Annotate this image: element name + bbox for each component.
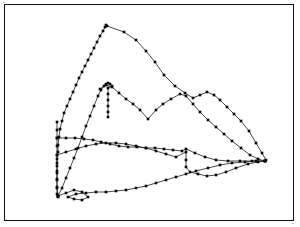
data-point-marker [264, 160, 267, 163]
data-point-marker [139, 109, 142, 112]
data-point-marker [85, 145, 88, 148]
data-point-marker [206, 175, 209, 178]
data-point-marker [56, 145, 59, 148]
data-point-marker [189, 171, 192, 174]
data-point-marker [226, 106, 229, 109]
data-point-marker [235, 167, 238, 170]
data-point-marker [145, 147, 148, 150]
data-point-marker [154, 61, 157, 64]
data-point-marker [89, 115, 92, 118]
data-point-marker [240, 120, 243, 123]
data-point-marker [56, 137, 59, 140]
data-point-marker [69, 98, 72, 101]
series-layer [57, 25, 266, 200]
data-point-marker [56, 178, 59, 181]
data-point-marker [56, 154, 59, 157]
data-point-marker [93, 105, 96, 108]
data-point-marker [261, 152, 264, 155]
data-point-marker [75, 148, 78, 151]
data-point-marker [219, 164, 222, 167]
data-point-marker [219, 99, 222, 102]
data-point-marker [97, 95, 100, 98]
data-point-marker [155, 182, 158, 185]
data-point-marker [102, 30, 105, 33]
data-point-marker [95, 143, 98, 146]
data-point-marker [73, 157, 76, 160]
data-point-marker [107, 93, 110, 96]
data-point-marker [155, 109, 158, 112]
data-point-marker [61, 187, 64, 190]
data-point-marker [215, 174, 218, 177]
data-point-marker [172, 149, 175, 152]
data-point-marker [65, 137, 68, 140]
data-point-marker [92, 139, 95, 142]
scan-noise-layer [3, 2, 294, 224]
data-point-marker [65, 151, 68, 154]
data-point-marker [57, 151, 60, 154]
data-point-marker [85, 125, 88, 128]
data-point-marker [225, 171, 228, 174]
data-point-marker [127, 146, 130, 149]
data-point-marker [207, 119, 210, 122]
data-point-marker [199, 111, 202, 114]
data-point-marker [104, 26, 107, 29]
data-point-marker [105, 142, 108, 145]
data-point-marker [154, 147, 157, 150]
data-point-marker [63, 112, 66, 115]
data-point-marker [248, 130, 251, 133]
data-point-marker [81, 191, 84, 194]
data-point-marker [251, 160, 254, 163]
data-point-marker [75, 84, 78, 87]
data-point-marker [105, 84, 108, 87]
data-point-marker [107, 99, 110, 102]
data-point-marker [147, 118, 150, 121]
data-point-marker [249, 154, 252, 157]
data-point-marker [81, 71, 84, 74]
data-point-marker [87, 59, 90, 62]
data-point-marker [247, 163, 250, 166]
data-point-marker [135, 145, 138, 148]
data-point-marker [107, 116, 110, 119]
data-point-marker [255, 142, 258, 145]
data-point-marker [73, 198, 76, 201]
data-point-marker [83, 138, 86, 141]
data-point-marker [155, 150, 158, 153]
data-point-marker [170, 98, 173, 101]
data-point-marker [111, 86, 114, 89]
data-point-marker [57, 195, 60, 198]
data-point-marker [66, 105, 69, 108]
data-point-marker [175, 176, 178, 179]
data-point-marker [65, 177, 68, 180]
data-point-marker [118, 145, 121, 148]
data-point-marker [199, 94, 202, 97]
data-point-marker [207, 167, 210, 170]
data-point-marker [132, 103, 135, 106]
data-point-marker [145, 50, 148, 53]
data-point-marker [75, 193, 78, 196]
data-point-marker [107, 105, 110, 108]
data-point-marker [255, 160, 258, 163]
data-point-marker [215, 126, 218, 129]
data-point-marker [231, 162, 234, 165]
data-point-marker [84, 65, 87, 68]
data-point-marker [165, 153, 168, 156]
data-point-marker [240, 147, 243, 150]
data-point-marker [175, 156, 178, 159]
data-point-marker [162, 103, 165, 106]
figure-container [0, 0, 300, 227]
data-point-marker [73, 189, 76, 192]
data-point-marker [185, 151, 188, 154]
line-chart-plot [0, 0, 300, 227]
data-point-marker [231, 140, 234, 143]
data-point-marker [227, 160, 230, 163]
data-point-marker [59, 128, 62, 131]
data-point-marker [85, 192, 88, 195]
data-point-marker [115, 142, 118, 145]
series-line [100, 85, 265, 161]
data-point-marker [81, 199, 84, 202]
data-point-marker [195, 170, 198, 173]
data-point-marker [93, 47, 96, 50]
data-point-marker [61, 120, 64, 123]
data-point-marker [87, 196, 90, 199]
data-point-marker [56, 187, 59, 190]
